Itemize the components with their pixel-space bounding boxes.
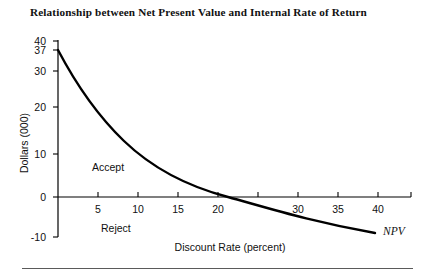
y-tick-label-0: 0 bbox=[18, 191, 46, 203]
x-tick-label-35: 35 bbox=[326, 203, 350, 215]
y-axis-ticks bbox=[53, 41, 58, 237]
y-tick-label-37: 37 bbox=[18, 44, 46, 56]
y-axis-title: Dollars (000) bbox=[18, 97, 30, 189]
accept-region-label: Accept bbox=[92, 161, 124, 173]
x-axis-ticks bbox=[98, 192, 411, 197]
x-tick-label-15: 15 bbox=[166, 203, 190, 215]
x-axis-title: Discount Rate (percent) bbox=[140, 241, 320, 253]
reject-region-label: Reject bbox=[101, 222, 131, 234]
figure-canvas: Relationship between Net Present Value a… bbox=[0, 0, 433, 279]
y-tick-label-neg10: -10 bbox=[18, 231, 46, 243]
plot-area bbox=[0, 0, 433, 279]
y-tick-label-30: 30 bbox=[18, 65, 46, 77]
x-tick-label-5: 5 bbox=[86, 203, 110, 215]
x-tick-label-30: 30 bbox=[286, 203, 310, 215]
x-tick-label-20: 20 bbox=[206, 203, 230, 215]
bottom-divider bbox=[22, 268, 413, 269]
x-tick-label-40: 40 bbox=[366, 203, 390, 215]
x-tick-label-10: 10 bbox=[126, 203, 150, 215]
npv-series-label: NPV bbox=[383, 225, 405, 237]
